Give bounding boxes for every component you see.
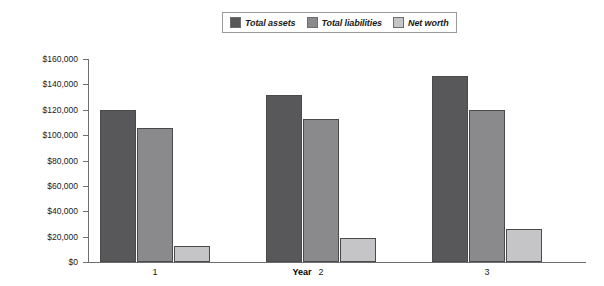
y-axis-label: $120,000 [14,105,78,115]
bar-net-worth-year-2 [340,238,376,262]
y-axis-label: $40,000 [14,206,78,216]
bar-group-year-3 [432,59,542,262]
y-axis-label: $0 [14,257,78,267]
bar-total-liabilities-year-2 [303,119,339,262]
bar-total-liabilities-year-1 [137,128,173,262]
x-axis-line [88,262,586,263]
y-axis-tick [83,161,88,162]
legend-label-total-liabilities: Total liabilities [322,18,382,28]
y-axis-tick [83,84,88,85]
legend-label-total-assets: Total assets [245,18,296,28]
bar-total-liabilities-year-3 [469,110,505,262]
y-axis-tick [83,237,88,238]
bar-total-assets-year-1 [100,110,136,262]
x-axis-title: Year [0,267,604,277]
legend-item-net-worth: Net worth [393,17,449,28]
legend-swatch-total-liabilities [307,17,318,28]
y-axis-line [88,59,89,262]
bar-total-assets-year-3 [432,76,468,263]
legend-swatch-net-worth [393,17,404,28]
y-axis-tick [83,186,88,187]
bar-group-year-1 [100,59,210,262]
bar-net-worth-year-3 [506,229,542,262]
plot-area: $0$20,000$40,000$60,000$80,000$100,000$1… [88,59,586,262]
bar-net-worth-year-1 [174,246,210,262]
y-axis-tick [83,262,88,263]
y-axis-tick [83,110,88,111]
y-axis-tick [83,135,88,136]
bar-group-year-2 [266,59,376,262]
y-axis-label: $20,000 [14,232,78,242]
y-axis-tick [83,211,88,212]
y-axis-label: $160,000 [14,54,78,64]
y-axis-label: $80,000 [14,156,78,166]
chart-legend: Total assets Total liabilities Net worth [222,12,457,33]
legend-item-total-liabilities: Total liabilities [307,17,382,28]
legend-swatch-total-assets [230,17,241,28]
y-axis-tick [83,59,88,60]
bar-chart: Total assets Total liabilities Net worth… [0,0,604,286]
y-axis-label: $60,000 [14,181,78,191]
y-axis-label: $100,000 [14,130,78,140]
y-axis-label: $140,000 [14,79,78,89]
bar-total-assets-year-2 [266,95,302,262]
legend-label-net-worth: Net worth [408,18,449,28]
legend-item-total-assets: Total assets [230,17,296,28]
